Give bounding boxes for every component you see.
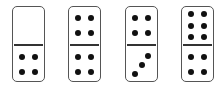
pip (145, 53, 151, 59)
pip (88, 30, 94, 36)
pip (188, 34, 194, 40)
pip (88, 15, 94, 21)
pip (188, 11, 194, 17)
pip (201, 11, 207, 17)
domino-half-top (126, 7, 157, 44)
pip (201, 69, 207, 75)
pip (188, 69, 194, 75)
domino-divider (183, 44, 212, 46)
domino-half-bottom (69, 46, 100, 83)
pip (75, 15, 81, 21)
pip (132, 71, 138, 77)
pip (139, 62, 145, 68)
pip (188, 54, 194, 60)
domino-half-bottom (13, 46, 44, 83)
pip (145, 30, 151, 36)
pip (201, 23, 207, 29)
pip (19, 69, 25, 75)
domino-divider (14, 44, 43, 46)
pip (32, 54, 38, 60)
pip (88, 69, 94, 75)
pip (75, 54, 81, 60)
domino-half-bottom (182, 46, 213, 83)
domino-half-top (69, 7, 100, 44)
domino-1 (12, 6, 45, 82)
domino-3 (125, 6, 158, 82)
pip (132, 30, 138, 36)
pip (132, 15, 138, 21)
pip (75, 69, 81, 75)
pip (188, 23, 194, 29)
pip (88, 54, 94, 60)
pip (145, 15, 151, 21)
domino-4 (181, 6, 214, 82)
pip (201, 54, 207, 60)
domino-half-top (13, 7, 44, 44)
pip (19, 54, 25, 60)
domino-2 (68, 6, 101, 82)
pip (201, 34, 207, 40)
pip (32, 69, 38, 75)
pip (75, 30, 81, 36)
domino-divider (70, 44, 99, 46)
domino-half-bottom (126, 46, 157, 83)
domino-divider (127, 44, 156, 46)
domino-half-top (182, 7, 213, 44)
